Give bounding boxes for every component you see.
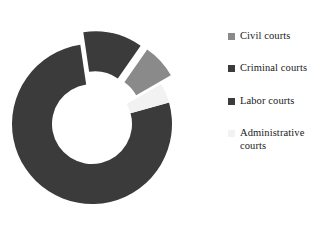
legend-swatch-administrative-courts: [228, 130, 235, 137]
legend-label-criminal-courts: Criminal courts: [240, 62, 307, 74]
donut-plot-area: [0, 0, 215, 251]
legend-item-labor-courts[interactable]: Labor courts: [228, 95, 320, 107]
chart-legend: Civil courts Criminal courts Labor court…: [228, 30, 320, 172]
legend-item-criminal-courts[interactable]: Criminal courts: [228, 62, 320, 74]
legend-label-civil-courts: Civil courts: [240, 30, 291, 42]
donut-slice-layer: [12, 31, 172, 204]
legend-swatch-criminal-courts: [228, 65, 235, 72]
donut-chart-svg: [0, 0, 215, 251]
legend-item-civil-courts[interactable]: Civil courts: [228, 30, 320, 42]
legend-label-labor-courts: Labor courts: [240, 95, 295, 107]
legend-item-administrative-courts[interactable]: Administrative courts: [228, 127, 320, 152]
legend-swatch-labor-courts: [228, 98, 235, 105]
legend-label-administrative-courts: Administrative courts: [240, 127, 320, 152]
legend-swatch-civil-courts: [228, 33, 235, 40]
donut-chart-figure: Civil courts Criminal courts Labor court…: [0, 0, 320, 251]
